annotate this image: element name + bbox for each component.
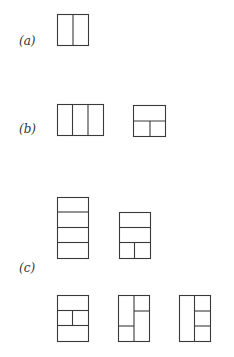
panel-b-1 xyxy=(58,105,104,136)
panel-c-5 xyxy=(180,296,211,342)
panel-c-2 xyxy=(120,213,151,259)
partition-diagram xyxy=(0,0,234,357)
panel-a-1 xyxy=(58,15,89,46)
panel-c-3 xyxy=(58,296,89,342)
panel-b-2 xyxy=(134,106,166,137)
panel-c-4 xyxy=(119,296,150,342)
panel-c-1 xyxy=(58,198,89,259)
panel-frame xyxy=(58,105,104,136)
